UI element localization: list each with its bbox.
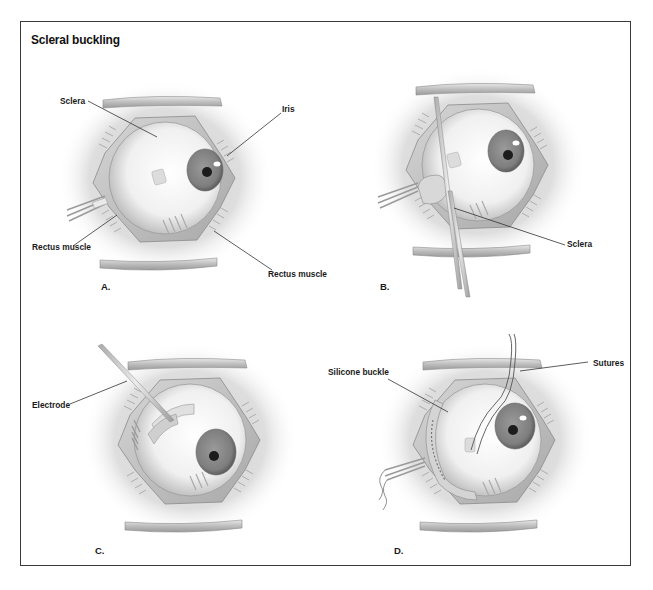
label-sutures-d: Sutures <box>593 357 624 368</box>
label-rectus-muscle-right-a: Rectus muscle <box>268 268 327 279</box>
illustration-canvas <box>0 0 653 590</box>
label-sclera-b: Sclera <box>567 238 592 249</box>
label-electrode-c: Electrode <box>32 399 70 410</box>
label-iris-a: Iris <box>282 103 295 114</box>
panel-c-illustration <box>82 342 298 538</box>
figure-title: Scleral buckling <box>31 32 120 47</box>
panel-label-c: C. <box>95 545 105 556</box>
label-rectus-muscle-left-a: Rectus muscle <box>32 241 91 252</box>
label-silicone-buckle-d: Silicone buckle <box>328 366 389 377</box>
panel-label-b: B. <box>380 281 390 292</box>
label-sclera-a: Sclera <box>60 95 85 106</box>
panel-label-a: A. <box>101 281 111 292</box>
panel-label-d: D. <box>394 545 404 556</box>
panel-b-illustration <box>370 67 586 297</box>
panel-d-illustration <box>377 334 593 538</box>
